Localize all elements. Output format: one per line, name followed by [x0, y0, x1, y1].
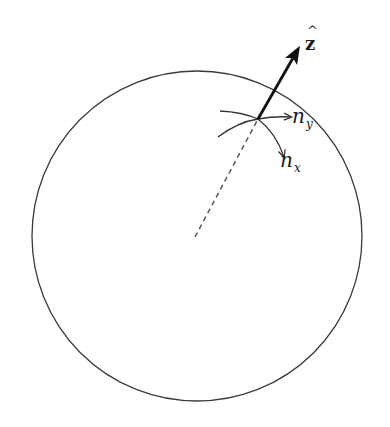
- tangent-curve-ny: [218, 117, 291, 137]
- hat-symbol: ^: [307, 24, 318, 37]
- nx-subscript: x: [294, 161, 301, 175]
- normal-vector-arrow: [258, 58, 293, 119]
- z-hat-label: ^ z: [305, 35, 315, 53]
- radius-dashed-line: [195, 119, 258, 237]
- ny-main: n: [292, 104, 305, 128]
- ny-label: ny: [292, 106, 313, 126]
- sphere-diagram: [0, 0, 390, 427]
- tangent-curve-nx: [220, 111, 284, 157]
- nx-main: n: [280, 148, 293, 172]
- nx-label: nx: [280, 150, 301, 170]
- ny-subscript: y: [306, 117, 313, 131]
